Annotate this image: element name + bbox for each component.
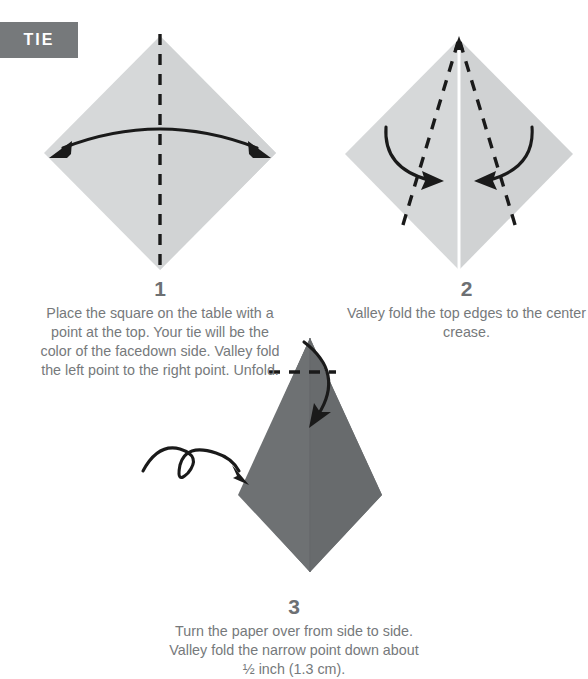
caption-step-1: 1 Place the square on the table with a p… [34,278,286,379]
diagram-step-1 [18,28,302,278]
step-number-3: 3 [168,596,420,617]
paper-diamond-left-step-2 [345,39,459,270]
step-text-3: Turn the paper over from side to side. V… [168,622,420,679]
step-number-2: 2 [345,278,588,299]
step-text-1: Place the square on the table with a poi… [34,304,286,379]
step-number-1: 1 [34,278,286,299]
caption-step-2: 2 Valley fold the top edges to the cente… [345,278,588,342]
diagram-step-2 [330,28,588,278]
paper-kite-right-shade [310,338,382,572]
arrow-turn-over-loop [143,448,249,485]
paper-diamond-right-step-2 [459,39,573,270]
step-text-2: Valley fold the top edges to the center … [345,304,588,342]
caption-step-3: 3 Turn the paper over from side to side.… [168,596,420,679]
